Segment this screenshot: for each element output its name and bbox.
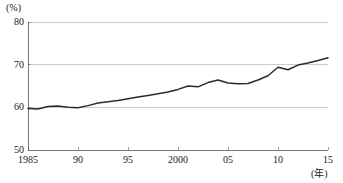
gridlines	[28, 22, 328, 107]
line-chart: (%) (年) 80706050 198590952000051015	[0, 0, 343, 183]
axis-tickmarks	[28, 22, 328, 150]
plot-area	[0, 0, 343, 183]
axis-frame	[28, 22, 328, 150]
data-series-line	[28, 58, 328, 109]
